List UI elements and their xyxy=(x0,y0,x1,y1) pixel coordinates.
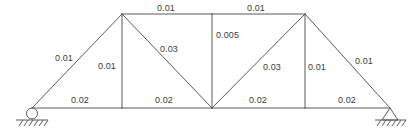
pinned-support-icon xyxy=(375,108,406,126)
label-diagonal-upper-left: 0.01 xyxy=(55,53,73,63)
member-diagonal-inner-right xyxy=(212,14,305,108)
label-top-chord-right: 0.01 xyxy=(247,3,265,13)
label-vertical-center: 0.005 xyxy=(216,30,239,40)
label-bottom-chord-3: 0.02 xyxy=(249,95,267,105)
label-bottom-chord-2: 0.02 xyxy=(155,95,173,105)
truss-structure-diagram: 0.01 0.01 0.01 0.03 0.03 0.01 0.01 0.005… xyxy=(0,0,419,133)
label-vertical-right: 0.01 xyxy=(308,62,326,72)
label-top-chord-left: 0.01 xyxy=(157,3,175,13)
truss-geometry xyxy=(0,0,419,133)
label-bottom-chord-4: 0.02 xyxy=(338,95,356,105)
label-diagonal-upper-right: 0.01 xyxy=(355,56,373,66)
member-diagonal-upper-right xyxy=(305,14,390,108)
label-diagonal-inner-right: 0.03 xyxy=(263,62,281,72)
label-bottom-chord-1: 0.02 xyxy=(71,95,89,105)
label-diagonal-inner-left: 0.03 xyxy=(160,44,178,54)
member-diagonal-inner-left xyxy=(122,14,212,108)
roller-support-icon xyxy=(16,108,48,126)
label-vertical-left: 0.01 xyxy=(98,61,116,71)
